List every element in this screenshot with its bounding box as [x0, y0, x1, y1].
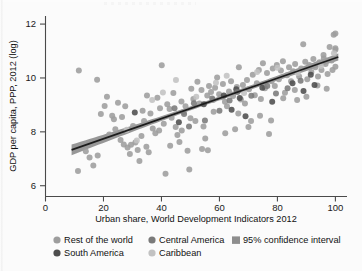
x-axis-title: Urban share, World Development Indicator… [95, 214, 297, 224]
data-point [324, 86, 330, 92]
data-point [179, 128, 185, 134]
data-point [245, 124, 251, 130]
data-point [273, 91, 279, 97]
data-point [331, 50, 337, 56]
data-point [243, 113, 249, 119]
data-point [214, 74, 220, 80]
data-point [149, 97, 155, 103]
data-point [310, 56, 316, 62]
data-point [332, 31, 338, 37]
y-tick-label: 8 [31, 126, 36, 137]
data-point [188, 86, 194, 92]
figure-left-edge [0, 0, 3, 271]
data-point [183, 103, 189, 109]
data-point [300, 41, 306, 47]
data-point [213, 80, 219, 86]
data-point [216, 108, 222, 114]
data-point [298, 78, 304, 84]
data-point [236, 64, 242, 70]
data-point [159, 62, 165, 68]
data-point [202, 136, 208, 142]
data-point [205, 147, 211, 153]
data-point [147, 111, 153, 117]
data-point [172, 105, 178, 111]
data-point [173, 77, 179, 83]
data-point [186, 167, 192, 173]
data-point [187, 115, 193, 121]
data-point [206, 83, 212, 89]
data-point [269, 99, 275, 105]
data-point [290, 80, 296, 86]
figure-container: 681012 020406080100 Urban share, World D… [0, 0, 362, 271]
data-point [248, 93, 254, 99]
data-point [280, 95, 286, 101]
data-point [303, 94, 309, 100]
data-point [134, 137, 140, 143]
x-tick-label: 80 [272, 202, 283, 213]
data-point [268, 118, 274, 124]
data-point [194, 79, 200, 85]
data-point [244, 77, 250, 83]
data-point [94, 77, 100, 83]
legend-item[interactable]: South America [53, 248, 124, 258]
data-point [90, 163, 96, 169]
data-point [294, 97, 300, 103]
data-point [240, 82, 246, 88]
data-point [109, 113, 115, 119]
data-point [176, 139, 182, 145]
data-point [235, 111, 241, 117]
data-point [144, 92, 150, 98]
data-point [242, 101, 248, 107]
data-point [112, 126, 118, 132]
data-point [315, 74, 321, 80]
data-point [154, 95, 160, 101]
legend-swatch-circle [53, 249, 60, 256]
data-point [327, 44, 333, 50]
data-point [248, 118, 254, 124]
data-point [330, 67, 336, 73]
data-point [136, 158, 142, 164]
data-point [258, 96, 264, 102]
data-point [224, 73, 230, 79]
x-axis-ticks: 020406080100 [43, 197, 343, 214]
y-axis-title: GDP per capita, PPP, 2012 (log) [8, 40, 18, 171]
data-point [75, 168, 81, 174]
data-point [280, 58, 286, 64]
legend-label: Rest of the world [64, 235, 133, 245]
data-point [87, 154, 93, 160]
data-point [174, 132, 180, 138]
legend-swatch-circle [148, 249, 155, 256]
data-point [138, 133, 144, 139]
legend-item[interactable]: 95% confidence interval [232, 235, 341, 245]
data-point [237, 95, 243, 101]
data-point [193, 94, 199, 100]
legend-label: Caribbean [159, 248, 201, 258]
x-tick-label: 20 [98, 202, 109, 213]
y-tick-label: 12 [25, 18, 36, 29]
legend-item[interactable]: Central America [148, 235, 225, 245]
data-point [264, 70, 270, 76]
scatter-chart: 681012 020406080100 Urban share, World D… [0, 0, 362, 271]
legend-swatch-circle [53, 236, 60, 243]
x-tick-label: 100 [327, 202, 343, 213]
data-point [167, 143, 173, 149]
data-point [104, 94, 110, 100]
legend: Rest of the worldCentral America95% conf… [53, 235, 340, 258]
data-point [157, 105, 163, 111]
data-point [161, 121, 167, 127]
data-point [115, 100, 121, 106]
x-tick-label: 0 [43, 202, 48, 213]
legend-item[interactable]: Caribbean [148, 248, 201, 258]
legend-item[interactable]: Rest of the world [53, 235, 133, 245]
legend-label: 95% confidence interval [243, 235, 341, 245]
data-point [266, 131, 272, 137]
data-point [292, 87, 298, 93]
data-point [76, 67, 82, 73]
data-point [119, 114, 125, 120]
data-point [308, 72, 314, 78]
data-point [176, 119, 182, 125]
data-point [128, 142, 134, 148]
data-point [160, 90, 166, 96]
data-point [95, 153, 101, 159]
data-point [83, 148, 89, 154]
